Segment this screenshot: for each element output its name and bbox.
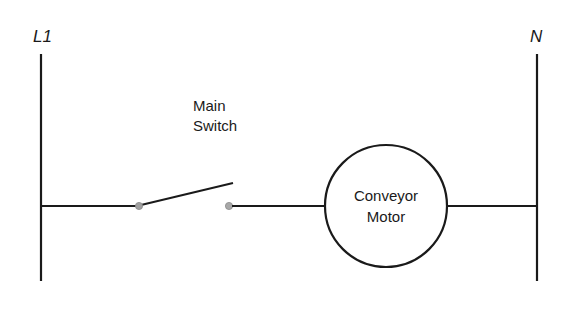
main-switch-label-line-1: Main	[193, 96, 237, 116]
right-rail-label: N	[530, 28, 542, 45]
switch-blade	[141, 183, 233, 205]
left-rail-label: L1	[33, 28, 52, 45]
conveyor-motor-label-line-2: Motor	[326, 206, 446, 227]
main-switch-label-line-2: Switch	[193, 116, 237, 136]
ladder-diagram: L1 N Main Switch Conveyor Motor	[0, 0, 575, 319]
switch-right-terminal-icon	[225, 202, 232, 209]
switch-left-terminal-icon	[135, 202, 142, 209]
ladder-diagram-graphics	[0, 0, 575, 319]
conveyor-motor-label-line-1: Conveyor	[326, 185, 446, 206]
conveyor-motor-label: Conveyor Motor	[326, 185, 446, 227]
main-switch-label: Main Switch	[193, 96, 237, 136]
